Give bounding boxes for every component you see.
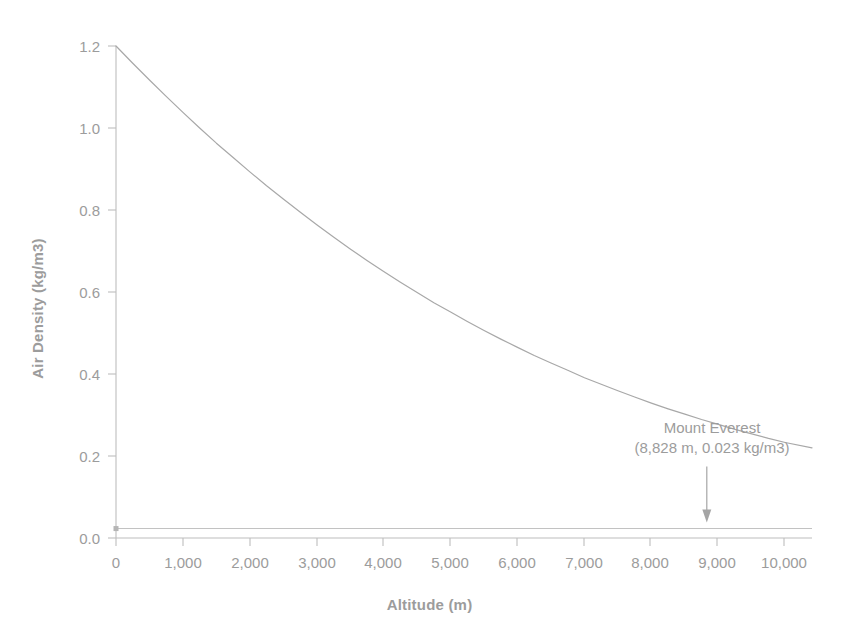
x-axis-title: Altitude (m): [0, 596, 859, 613]
chart-figure: Air Density (kg/m3) Altitude (m) 0.0 0.2…: [0, 0, 859, 642]
y-tick-label-3: 0.6: [34, 284, 100, 301]
x-tick-marks: [116, 538, 784, 546]
y-tick-label-1: 0.2: [34, 448, 100, 465]
everest-annotation-line2: (8,828 m, 0.023 kg/m3): [562, 438, 859, 458]
x-tick-label-10: 10,000: [744, 554, 824, 571]
y-tick-label-4: 0.8: [34, 202, 100, 219]
y-tick-label-0: 0.0: [34, 530, 100, 547]
air-density-curve: [116, 46, 812, 448]
y-tick-label-2: 0.4: [34, 366, 100, 383]
y-tick-marks: [108, 46, 116, 538]
y-tick-label-6: 1.2: [34, 38, 100, 55]
everest-arrow-icon: [702, 467, 711, 523]
y-tick-label-5: 1.0: [34, 120, 100, 137]
plot-area: [0, 0, 859, 642]
everest-annotation: Mount Everest (8,828 m, 0.023 kg/m3): [562, 418, 859, 458]
everest-annotation-line1: Mount Everest: [562, 418, 859, 438]
origin-marker: [114, 526, 119, 531]
